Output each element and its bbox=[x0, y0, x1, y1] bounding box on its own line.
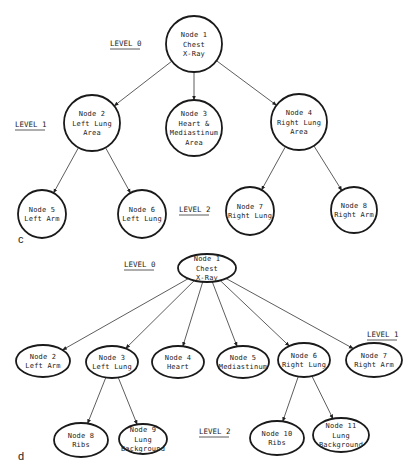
edge-node-6-to-node-10 bbox=[283, 377, 299, 422]
node-label-line: Node 9 bbox=[130, 426, 157, 434]
node-label-line: Right Lung bbox=[282, 361, 326, 369]
node-6: Node 6Right Lung bbox=[278, 343, 330, 377]
edge-node-2-to-node-6 bbox=[105, 148, 130, 193]
node-label-line: Lung bbox=[332, 432, 350, 440]
node-label-line: Left Lung bbox=[92, 363, 132, 371]
edge-node-1-to-node-6 bbox=[220, 280, 289, 346]
node-label-line: Node 7 bbox=[237, 203, 264, 211]
edge-node-2-to-node-5 bbox=[54, 148, 79, 193]
node-ellipse bbox=[152, 346, 204, 378]
node-10: Node 10Ribs bbox=[250, 421, 304, 455]
node-label-line: Right Lung bbox=[277, 119, 321, 127]
node-label-line: Node 2 bbox=[79, 110, 106, 118]
node-label-line: Right Arm bbox=[354, 361, 394, 369]
level-label: LEVEL 0 bbox=[124, 260, 156, 269]
node-circle bbox=[331, 187, 377, 233]
panel-label-d: d bbox=[18, 450, 24, 462]
node-5: Node 5Mediastinum bbox=[217, 346, 269, 378]
node-1: Node 1ChestX-Ray bbox=[166, 16, 222, 72]
node-7: Node 7Right Arm bbox=[346, 343, 402, 377]
edge-node-1-to-node-4 bbox=[183, 282, 203, 346]
edge-node-1-to-node-2 bbox=[114, 61, 172, 106]
node-ellipse bbox=[346, 343, 402, 377]
node-7: Node 7Right Lung bbox=[226, 187, 274, 235]
node-label-line: Heart & bbox=[179, 120, 210, 128]
node-label-line: Node 7 bbox=[361, 352, 388, 360]
node-label-line: Node 6 bbox=[129, 206, 156, 214]
node-label-line: Mediastinum bbox=[170, 129, 219, 137]
node-label-line: Node 1 bbox=[181, 31, 208, 39]
node-label-line: Left Arm bbox=[24, 215, 59, 223]
node-label-line: Background bbox=[319, 441, 363, 449]
node-ellipse bbox=[54, 423, 108, 457]
node-ellipse bbox=[250, 421, 304, 455]
node-label-line: Ribs bbox=[72, 441, 90, 449]
level-label: LEVEL 0 bbox=[110, 39, 142, 48]
node-label-line: Node 2 bbox=[30, 353, 57, 361]
node-label-line: Left Lung bbox=[72, 120, 112, 128]
node-label-line: Ribs bbox=[268, 439, 286, 447]
node-1: Node 1ChestX-Ray bbox=[178, 254, 236, 282]
node-label-line: Node 8 bbox=[341, 202, 368, 210]
node-label-line: Area bbox=[185, 139, 203, 147]
node-label-line: Node 6 bbox=[291, 352, 318, 360]
node-label-line: X-Ray bbox=[196, 274, 218, 282]
node-label-line: Lung bbox=[134, 436, 152, 444]
edge-node-4-to-node-8 bbox=[314, 146, 342, 191]
level-label: LEVEL 1 bbox=[367, 330, 399, 339]
node-ellipse bbox=[217, 346, 269, 378]
node-circle bbox=[226, 187, 274, 235]
node-ellipse bbox=[86, 346, 138, 378]
node-3: Node 3Heart &MediastinumArea bbox=[166, 100, 222, 156]
edge-node-1-to-node-3 bbox=[126, 281, 195, 349]
node-label-line: Right Lung bbox=[228, 212, 272, 220]
edge-node-1-to-node-7 bbox=[226, 279, 353, 349]
node-label-line: Node 3 bbox=[181, 110, 208, 118]
edge-node-6-to-node-11 bbox=[312, 376, 333, 419]
node-label-line: Area bbox=[290, 128, 308, 136]
node-circle bbox=[166, 100, 222, 156]
edge-node-4-to-node-7 bbox=[262, 147, 286, 190]
node-circle bbox=[18, 190, 66, 238]
edge-node-1-to-node-5 bbox=[212, 282, 237, 347]
node-label-line: Background bbox=[121, 445, 165, 453]
node-9: Node 9LungBackground bbox=[119, 424, 167, 454]
node-label-line: Node 11 bbox=[326, 422, 357, 430]
node-8: Node 8Ribs bbox=[54, 423, 108, 457]
node-2: Node 2Left Arm bbox=[16, 345, 70, 377]
node-2: Node 2Left LungArea bbox=[64, 95, 120, 151]
node-4: Node 4Heart bbox=[152, 346, 204, 378]
node-label-line: Right Arm bbox=[334, 211, 374, 219]
edge-node-3-to-node-9 bbox=[118, 378, 137, 425]
node-label-line: X-Ray bbox=[183, 50, 205, 58]
diagram-c-tree: Node 1ChestX-RayNode 2Left LungAreaNode … bbox=[15, 16, 377, 245]
edge-node-1-to-node-4 bbox=[216, 61, 276, 106]
level-label: LEVEL 2 bbox=[199, 427, 231, 436]
level-label: LEVEL 1 bbox=[15, 120, 47, 129]
node-label-line: Chest bbox=[196, 265, 218, 273]
node-ellipse bbox=[16, 345, 70, 377]
node-label-line: Chest bbox=[183, 41, 205, 49]
hierarchy-diagrams: Node 1ChestX-RayNode 2Left LungAreaNode … bbox=[0, 0, 415, 471]
node-label-line: Node 10 bbox=[262, 430, 293, 438]
node-label-line: Node 5 bbox=[230, 354, 257, 362]
node-6: Node 6Left Lung bbox=[118, 190, 166, 238]
node-label-line: Left Lung bbox=[122, 215, 162, 223]
node-circle bbox=[118, 190, 166, 238]
node-label-line: Node 4 bbox=[286, 109, 313, 117]
node-11: Node 11LungBackground bbox=[313, 418, 369, 452]
node-label-line: Node 4 bbox=[165, 354, 192, 362]
node-label-line: Node 8 bbox=[68, 432, 95, 440]
level-label: LEVEL 2 bbox=[179, 205, 211, 214]
node-8: Node 8Right Arm bbox=[331, 187, 377, 233]
diagram-d-tree: Node 1ChestX-RayNode 2Left ArmNode 3Left… bbox=[16, 254, 402, 462]
node-label-line: Node 5 bbox=[29, 206, 56, 214]
panel-label-c: c bbox=[18, 233, 24, 245]
node-label-line: Node 1 bbox=[194, 255, 221, 263]
node-4: Node 4Right LungArea bbox=[271, 94, 327, 150]
node-label-line: Node 3 bbox=[99, 354, 126, 362]
node-label-line: Left Arm bbox=[25, 362, 60, 370]
node-label-line: Mediastinum bbox=[219, 363, 268, 371]
edge-node-3-to-node-8 bbox=[88, 378, 106, 424]
node-ellipse bbox=[278, 343, 330, 377]
